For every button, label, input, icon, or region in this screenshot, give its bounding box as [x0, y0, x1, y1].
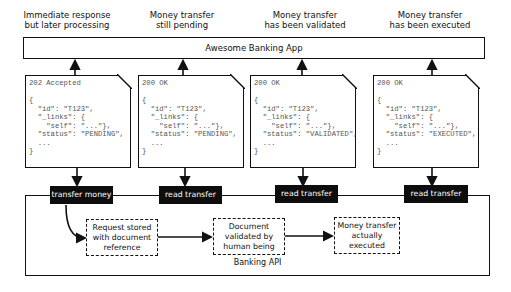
step-document-validated: Document validated by human being — [213, 218, 285, 255]
http-status: 202 Accepted — [29, 79, 81, 88]
step-request-stored: Request stored with document reference — [86, 219, 158, 256]
operation-read-transfer-1: read transfer — [159, 186, 222, 204]
json-body: { "id": "T123", "_links": { "self": "...… — [254, 96, 358, 156]
response-card-3: 200 OK { "id": "T123", "_links": { "self… — [250, 75, 356, 168]
json-body: { "id": "T123", "_links": { "self": "...… — [142, 96, 237, 156]
page-fold-icon — [465, 74, 480, 89]
json-body: { "id": "T123", "_links": { "self": "...… — [377, 96, 476, 156]
http-status: 200 OK — [254, 79, 280, 88]
operation-read-transfer-3: read transfer — [404, 185, 468, 203]
response-card-2: 200 OK { "id": "T123", "_links": { "self… — [138, 75, 244, 168]
http-status: 200 OK — [377, 79, 403, 88]
page-fold-icon — [117, 74, 132, 89]
step-transfer-executed: Money transfer actually executed — [334, 217, 400, 254]
operation-read-transfer-2: read transfer — [275, 185, 338, 203]
page-fold-icon — [342, 74, 357, 89]
json-body: { "id": "T123", "_links": { "self": "...… — [29, 96, 124, 156]
response-card-1: 202 Accepted { "id": "T123", "_links": {… — [25, 75, 131, 168]
operation-transfer-money: transfer money — [50, 186, 113, 204]
page-fold-icon — [230, 74, 245, 89]
response-card-4: 200 OK { "id": "T123", "_links": { "self… — [373, 75, 479, 168]
http-status: 200 OK — [142, 79, 168, 88]
api-label: Banking API — [26, 258, 489, 267]
